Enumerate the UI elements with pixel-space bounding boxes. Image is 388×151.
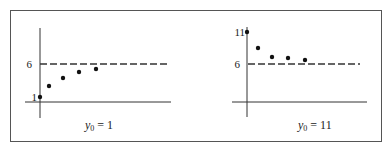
left-data-point xyxy=(47,84,51,88)
left-data-point xyxy=(77,70,81,74)
left-data-point xyxy=(61,76,65,80)
left-ytick-label-6: 6 xyxy=(27,58,33,70)
right-data-point xyxy=(270,55,274,59)
right-ytick-label-11: 11 xyxy=(234,26,245,38)
right-data-point xyxy=(286,56,290,60)
right-ytick-label-6: 6 xyxy=(235,58,241,70)
left-data-point xyxy=(94,67,98,71)
right-caption: y0 = 11 xyxy=(297,118,332,133)
left-ytick-label-1: 1 xyxy=(32,91,38,103)
right-panel: 6 11 y0 = 11 xyxy=(232,26,367,133)
left-caption: y0 = 1 xyxy=(84,118,113,133)
left-data-point xyxy=(38,95,42,99)
right-data-point xyxy=(256,46,260,50)
right-data-point xyxy=(245,30,249,34)
right-data-point xyxy=(303,58,307,62)
figure-canvas: 6 1 y0 = 1 6 11 y0 = 11 xyxy=(0,0,388,151)
left-panel: 6 1 y0 = 1 xyxy=(25,28,171,133)
